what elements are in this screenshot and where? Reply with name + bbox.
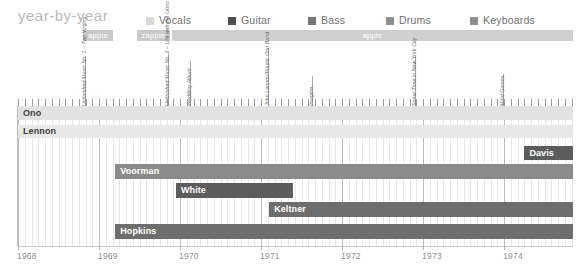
- tick-hatch: [315, 99, 316, 106]
- tick-hatch: [38, 99, 39, 106]
- tick-hatch: [227, 99, 228, 106]
- tick-hatch: [518, 99, 519, 106]
- release-marker: John Lennon/Plastic Ono Band: [268, 42, 269, 106]
- tick-hatch: [349, 99, 350, 106]
- tick-hatch: [160, 99, 161, 106]
- tick-hatch: [133, 99, 134, 106]
- axis-tick: [99, 246, 100, 250]
- legend-label: Drums: [399, 14, 431, 26]
- axis-tick-label: 1970: [179, 251, 199, 261]
- tick-hatch: [423, 99, 424, 106]
- legend-swatch-icon: [308, 17, 316, 25]
- tick-hatch: [410, 99, 411, 106]
- tick-hatch: [376, 99, 377, 106]
- tick-hatch: [45, 99, 46, 106]
- release-marker: Unfinished Music No. 2 – Life with the L…: [168, 42, 169, 106]
- tick-hatch: [261, 99, 262, 106]
- tick-hatch: [403, 99, 404, 106]
- tick-hatch: [369, 99, 370, 106]
- tick-hatch: [275, 99, 276, 106]
- timeline-bar-voorman[interactable]: Voorman: [115, 164, 573, 179]
- tick-hatch: [214, 99, 215, 106]
- tick-hatch: [437, 99, 438, 106]
- tick-hatch: [416, 99, 417, 106]
- tick-hatch: [153, 99, 154, 106]
- release-title-label: Unfinished Music No. 2 – Life with the L…: [164, 1, 170, 106]
- tick-hatch: [470, 99, 471, 106]
- tick-hatch: [477, 99, 478, 106]
- tick-hatch: [288, 99, 289, 106]
- release-marker: Imagine: [312, 42, 313, 106]
- legend-swatch-icon: [146, 17, 154, 25]
- tick-hatch: [565, 99, 566, 106]
- tick-hatch: [92, 99, 93, 106]
- tick-hatch: [329, 99, 330, 106]
- tick-hatch: [140, 99, 141, 106]
- x-axis: 1968196919701971197219731974: [18, 246, 573, 266]
- tick-hatch: [167, 99, 168, 106]
- legend-label: Guitar: [241, 14, 271, 26]
- tick-hatch: [187, 99, 188, 106]
- release-annotations: Unfinished Music No. 1 – Two VirginsUnfi…: [0, 42, 587, 106]
- tick-hatch: [531, 99, 532, 106]
- tick-hatch: [72, 99, 73, 106]
- legend-item-drums: Drums: [386, 10, 431, 22]
- timeline-bar-lennon[interactable]: Lennon: [18, 125, 573, 138]
- tick-hatch: [113, 99, 114, 106]
- axis-tick: [180, 246, 181, 250]
- release-marker: Some Time in New York City: [415, 42, 416, 106]
- tick-hatch: [254, 99, 255, 106]
- timeline-row: Davis: [18, 146, 573, 160]
- tick-hatch: [59, 99, 60, 106]
- timeline-plot: OnoLennonDavisVoormanWhiteKeltnerHopkins: [18, 106, 573, 246]
- timeline-bar-keltner[interactable]: Keltner: [269, 202, 573, 217]
- axis-tick: [342, 246, 343, 250]
- tick-hatch: [194, 99, 195, 106]
- tick-hatch: [25, 99, 26, 106]
- timeline-bar-hopkins[interactable]: Hopkins: [115, 224, 573, 239]
- release-title-label: John Lennon/Plastic Ono Band: [264, 32, 270, 106]
- tick-hatch: [504, 99, 505, 106]
- timeline-bar-davis[interactable]: Davis: [524, 146, 573, 160]
- tick-hatch: [545, 99, 546, 106]
- tick-hatch: [234, 99, 235, 106]
- tick-hatch-strip: [18, 99, 573, 106]
- tick-hatch: [524, 99, 525, 106]
- timeline-bar-white[interactable]: White: [176, 183, 293, 198]
- legend-swatch-icon: [470, 17, 478, 25]
- tick-hatch: [497, 99, 498, 106]
- tick-hatch: [86, 99, 87, 106]
- timeline-bar-ono[interactable]: Ono: [18, 106, 573, 120]
- axis-line: [18, 246, 573, 247]
- axis-tick-label: 1973: [422, 251, 442, 261]
- axis-tick-label: 1969: [98, 251, 118, 261]
- tick-hatch: [572, 99, 573, 106]
- legend-label: Bass: [321, 14, 345, 26]
- tick-hatch: [511, 99, 512, 106]
- tick-hatch: [551, 99, 552, 106]
- tick-hatch: [173, 99, 174, 106]
- tick-hatch: [484, 99, 485, 106]
- tick-hatch: [389, 99, 390, 106]
- timeline-row: Ono: [18, 106, 573, 120]
- tick-hatch: [450, 99, 451, 106]
- tick-hatch: [119, 99, 120, 106]
- tick-hatch: [79, 99, 80, 106]
- chart-header: year-by-year VocalsGuitarBassDrumsKeyboa…: [0, 0, 587, 28]
- tick-hatch: [396, 99, 397, 106]
- tick-hatch: [443, 99, 444, 106]
- timeline-row: Voorman: [18, 164, 573, 179]
- tick-hatch: [241, 99, 242, 106]
- release-marker: Mind Games: [503, 42, 504, 106]
- legend-item-keyboards: Keyboards: [470, 10, 535, 22]
- tick-hatch: [464, 99, 465, 106]
- legend-swatch-icon: [228, 17, 236, 25]
- timeline-row: Hopkins: [18, 224, 573, 239]
- release-marker: Unfinished Music No. 1 – Two Virgins: [85, 42, 86, 106]
- tick-hatch: [18, 99, 19, 106]
- tick-hatch: [200, 99, 201, 106]
- legend-label: Keyboards: [483, 14, 535, 26]
- tick-hatch: [32, 99, 33, 106]
- tick-hatch: [146, 99, 147, 106]
- record-label-bands: applezappleapple: [0, 30, 587, 42]
